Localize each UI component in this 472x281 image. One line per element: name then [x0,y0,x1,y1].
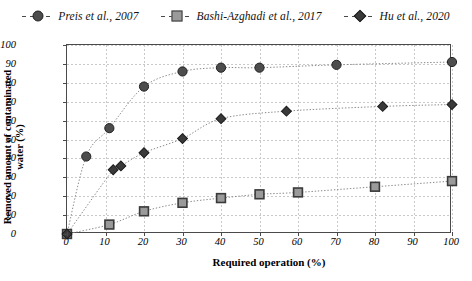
data-point-square [255,190,264,199]
y-tick-mark [63,196,67,197]
data-point-circle [447,57,456,66]
series-line [67,62,452,234]
data-point-circle [216,63,225,72]
x-tick-mark [414,232,415,236]
y-tick-label: 50 [0,139,16,150]
data-point-diamond [447,100,457,110]
y-tick-mark [63,102,67,103]
data-point-circle [105,124,114,133]
y-tick-label: 10 [0,214,16,225]
x-tick-label: 30 [165,236,199,247]
y-tick-mark [63,177,67,178]
legend-line-preis [22,16,54,17]
y-tick-mark [63,64,67,65]
y-tick-label: 20 [0,195,16,206]
x-tick-mark [183,232,184,236]
x-tick-mark [106,232,107,236]
legend-line-hu [344,16,376,17]
x-tick-label: 40 [203,236,237,247]
gridline-vertical [452,45,453,232]
y-tick-label: 70 [0,101,16,112]
data-point-square [105,220,114,229]
x-tick-mark [67,232,68,236]
x-axis-label: Required operation (%) [66,256,472,268]
legend-label-bashi-azghadi: Bashi-Azghadi et al., 2017 [197,10,322,22]
legend-item-bashi-azghadi: Bashi-Azghadi et al., 2017 [161,10,322,22]
chart-figure: Preis et al., 2007 Bashi-Azghadi et al.,… [0,0,472,281]
data-point-circle [178,67,187,76]
y-tick-mark [63,121,67,122]
y-tick-label: 90 [0,63,16,74]
data-point-square [178,198,187,207]
plot-region [66,44,451,233]
x-tick-mark [221,232,222,236]
x-tick-label: 20 [126,236,160,247]
legend-line-bashi-azghadi [161,16,193,17]
y-tick-label: 100 [0,44,16,55]
x-tick-label: 60 [280,236,314,247]
data-point-circle [255,63,264,72]
series-line [67,105,452,234]
x-tick-mark [144,232,145,236]
y-tick-mark [63,83,67,84]
x-tick-mark [298,232,299,236]
y-tick-label: 60 [0,120,16,131]
series-square [63,177,457,239]
data-point-diamond [178,134,188,144]
y-tick-label: 80 [0,82,16,93]
data-point-square [371,182,380,191]
x-tick-label: 50 [242,236,276,247]
data-point-circle [139,82,148,91]
y-tick-mark [63,215,67,216]
data-series-layer [67,45,452,234]
x-tick-mark [260,232,261,236]
data-point-square [294,188,303,197]
data-point-diamond [216,114,226,124]
data-point-square [140,207,149,216]
legend-item-hu: Hu et al., 2020 [344,10,450,22]
y-tick-mark [63,140,67,141]
data-point-square [448,177,457,186]
x-tick-label: 10 [88,236,122,247]
x-tick-label: 80 [357,236,391,247]
chart-area: Removed amount of contaminated water (%)… [0,28,472,281]
square-marker-icon [171,11,182,22]
data-point-square [217,194,226,203]
x-tick-mark [337,232,338,236]
y-tick-mark [63,158,67,159]
legend-label-hu: Hu et al., 2020 [380,10,450,22]
data-point-circle [332,60,341,69]
x-tick-label: 90 [396,236,430,247]
series-diamond [62,100,457,239]
y-tick-label: 30 [0,176,16,187]
x-tick-mark [375,232,376,236]
series-line [67,181,452,234]
diamond-marker-icon [353,10,366,23]
data-point-diamond [282,106,292,116]
legend-item-preis: Preis et al., 2007 [22,10,138,22]
data-point-diamond [139,148,149,158]
x-tick-label: 100 [434,236,468,247]
y-tick-mark [63,45,67,46]
x-tick-mark [452,232,453,236]
circle-marker-icon [33,11,44,22]
legend-label-preis: Preis et al., 2007 [58,10,138,22]
y-tick-label: 0 [0,233,16,244]
data-point-circle [82,152,91,161]
x-tick-label: 70 [319,236,353,247]
y-tick-label: 40 [0,157,16,168]
data-point-diamond [378,101,388,111]
series-circle [62,57,456,238]
chart-legend: Preis et al., 2007 Bashi-Azghadi et al.,… [0,4,472,28]
